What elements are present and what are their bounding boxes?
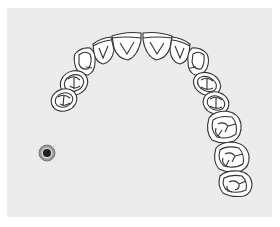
tooth-right-first-molar[interactable] bbox=[208, 111, 242, 143]
tooth-right-lateral-incisor[interactable] bbox=[170, 37, 190, 64]
selection-marker[interactable] bbox=[39, 145, 55, 161]
tooth-right-central-incisor[interactable] bbox=[143, 32, 172, 60]
tooth-right-third-molar[interactable] bbox=[219, 171, 252, 197]
tooth-right-second-molar[interactable] bbox=[215, 142, 250, 172]
tooth-left-lateral-incisor[interactable] bbox=[93, 37, 114, 64]
tooth-right-canine[interactable] bbox=[188, 48, 209, 75]
marker-dot-icon bbox=[43, 149, 51, 157]
dental-arch-diagram bbox=[0, 0, 280, 227]
tooth-left-central-incisor[interactable] bbox=[112, 32, 141, 60]
